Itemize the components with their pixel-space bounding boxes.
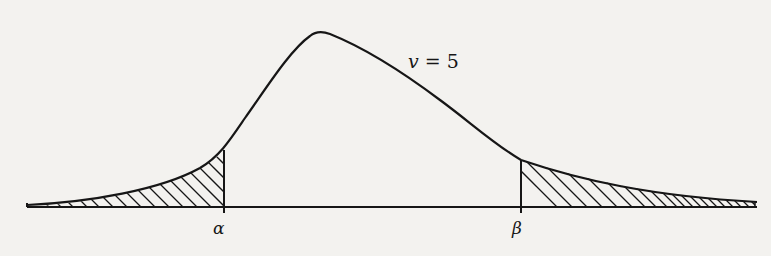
nu-value: 5 <box>447 50 459 72</box>
alpha-label: α <box>213 218 224 238</box>
beta-label: β <box>512 218 522 238</box>
right-tail-hatching <box>500 150 760 210</box>
curve-parameter-label: v = 5 <box>408 50 459 72</box>
density-curve <box>27 32 757 205</box>
equals-sign: = <box>425 50 441 72</box>
distribution-figure <box>0 0 771 256</box>
nu-symbol: v <box>408 50 419 72</box>
